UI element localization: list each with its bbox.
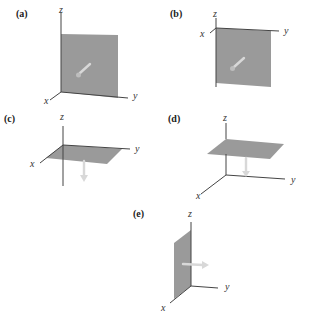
x-axis-d xyxy=(201,175,226,194)
y-label-b: y xyxy=(283,25,289,36)
panel-a: (a) z y x xyxy=(16,4,138,106)
normal-arrow-icon-d xyxy=(242,158,250,177)
panel-d: (d) z y x xyxy=(168,112,296,201)
z-label-a: z xyxy=(58,4,63,15)
normal-arrow-icon-c xyxy=(80,161,88,182)
panel-label-c: (c) xyxy=(4,113,15,125)
x-axis-b xyxy=(210,28,216,33)
y-label-a: y xyxy=(132,90,138,101)
x-label-b: x xyxy=(199,28,205,39)
y-axis-e xyxy=(191,286,218,288)
x-label-e: x xyxy=(160,302,166,313)
panel-label-a: (a) xyxy=(16,8,28,20)
figure-canvas: (a) z y x (b) z y x (c) xyxy=(0,0,309,326)
y-axis-d xyxy=(226,175,285,179)
y-label-e: y xyxy=(224,281,230,292)
panel-label-b: (b) xyxy=(170,8,182,20)
z-label-e: z xyxy=(187,208,192,219)
panel-e: (e) z y x xyxy=(133,208,230,313)
x-label-d: x xyxy=(195,190,201,201)
x-label-a: x xyxy=(43,95,49,106)
x-label-c: x xyxy=(29,158,35,169)
horizontal-plane-d xyxy=(207,139,284,159)
panel-label-e: (e) xyxy=(133,208,144,220)
panel-c: (c) z y x xyxy=(4,111,140,186)
z-label-b: z xyxy=(212,8,217,19)
panel-b: (b) z y x xyxy=(170,8,289,87)
y-label-c: y xyxy=(134,143,140,154)
x-axis-a xyxy=(50,92,61,100)
z-label-c: z xyxy=(59,111,64,122)
panel-label-d: (d) xyxy=(168,113,180,125)
z-label-d: z xyxy=(222,112,227,123)
y-label-d: y xyxy=(290,174,296,185)
